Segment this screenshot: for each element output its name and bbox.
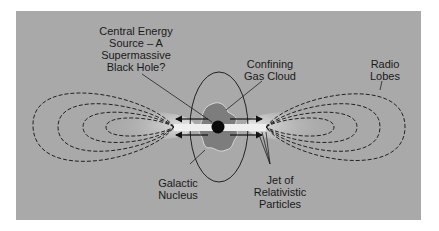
label-gas-cloud: Confining Gas Cloud bbox=[240, 58, 300, 82]
label-energy-source: Central Energy Source – A Supermassive B… bbox=[92, 25, 180, 73]
black-hole bbox=[212, 121, 225, 134]
agn-diagram bbox=[0, 0, 439, 231]
label-jet: Jet of Relativistic Particles bbox=[245, 174, 315, 210]
label-galactic-nucleus: Galactic Nucleus bbox=[150, 177, 206, 201]
label-radio-lobes: Radio Lobes bbox=[365, 58, 405, 82]
